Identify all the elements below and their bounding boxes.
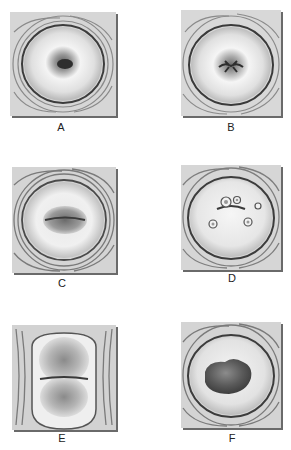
panel-label-c: C (42, 277, 82, 289)
lower-lobe-icon (40, 377, 88, 417)
cervix-illustration-f (181, 322, 281, 428)
panel-label-f: F (212, 432, 252, 444)
panel-label-a: A (41, 121, 81, 133)
panel-label-d: D (212, 272, 252, 284)
panel-label-e: E (42, 432, 82, 444)
os-icon (57, 59, 73, 69)
cervix-illustration-c (12, 167, 116, 273)
cervix-illustration-a (10, 12, 116, 116)
cervix-illustration-e (12, 325, 116, 430)
panel-label-b: B (211, 121, 251, 133)
cervix-illustration-d (181, 165, 281, 270)
cervix-illustration-b (181, 10, 281, 116)
